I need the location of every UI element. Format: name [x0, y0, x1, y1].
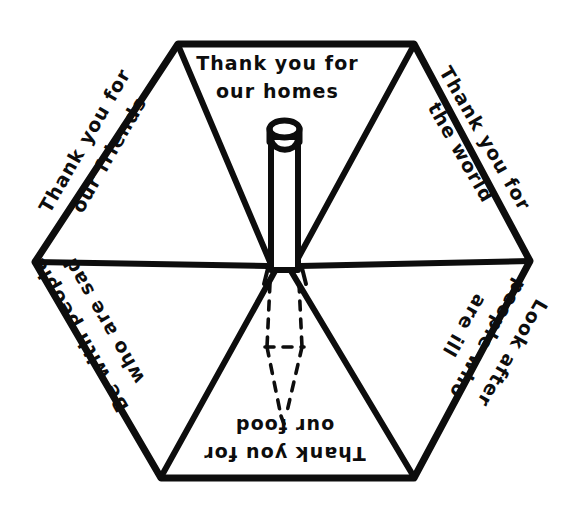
- pole-top-ellipse: [270, 121, 300, 138]
- rib-upper-right: [296, 45, 414, 262]
- handle-taper-left: [267, 347, 281, 416]
- drawing-canvas: Thank you for our homes Thank you for th…: [0, 0, 561, 513]
- handle-left-edge: [267, 283, 270, 347]
- handle-tip: [281, 416, 287, 424]
- pole-band: [271, 140, 298, 150]
- rib-left: [35, 262, 267, 266]
- rib-lower-right: [291, 271, 414, 477]
- rib-upper-left: [178, 45, 270, 262]
- pole-shaft: [271, 140, 298, 270]
- handle-taper-right: [286, 347, 302, 416]
- rib-lower-left: [161, 271, 275, 477]
- umbrella-drawing: [0, 0, 561, 513]
- dashed-handle: [265, 283, 304, 424]
- rib-right: [300, 261, 530, 266]
- ferrule-pole: [270, 121, 300, 271]
